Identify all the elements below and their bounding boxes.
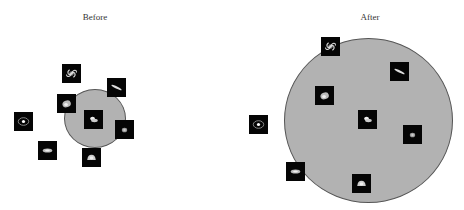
- galaxy-elliptical-small-icon: [403, 125, 422, 144]
- galaxy-elliptical-blob-icon: [315, 86, 334, 105]
- galaxy-ring-icon: [14, 112, 33, 131]
- galaxy-irregular-icon: [358, 110, 377, 129]
- galaxy-edge-on-icon: [107, 78, 126, 97]
- galaxy-elliptical-blob-icon: [57, 94, 76, 113]
- galaxy-irregular-icon: [84, 110, 103, 129]
- before-title: Before: [83, 12, 108, 22]
- galaxy-spiral-icon: [62, 64, 81, 83]
- after-title: After: [361, 12, 380, 22]
- galaxy-spiral-icon: [321, 37, 340, 56]
- galaxy-ring-icon: [249, 115, 268, 134]
- galaxy-elongated-elliptical-icon: [38, 141, 57, 160]
- galaxy-elongated-elliptical-icon: [286, 162, 305, 181]
- galaxy-lenticular-icon: [352, 174, 371, 193]
- galaxy-edge-on-icon: [390, 62, 409, 81]
- galaxy-lenticular-icon: [82, 148, 101, 167]
- galaxy-elliptical-small-icon: [115, 120, 134, 139]
